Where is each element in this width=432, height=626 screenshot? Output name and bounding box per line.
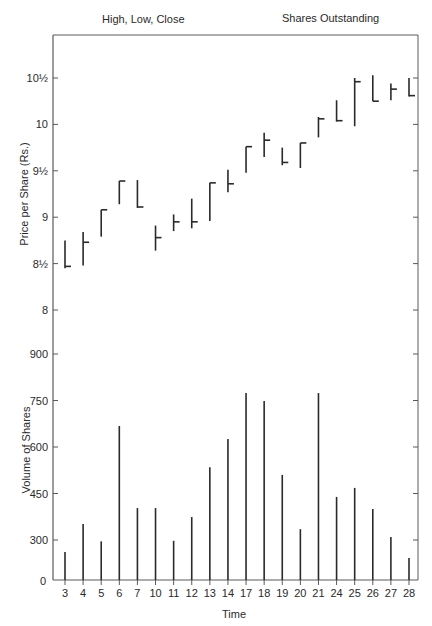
x-tick-label: 26 [367,587,379,599]
x-tick-label: 6 [116,587,122,599]
x-tick-label: 19 [276,587,288,599]
volume-tick-label: 600 [30,441,48,453]
x-tick-label: 27 [385,587,397,599]
volume-tick-label: 900 [30,348,48,360]
x-tick-label: 17 [240,587,252,599]
price-tick-label: 10½ [27,72,48,84]
x-tick-label: 21 [312,587,324,599]
x-tick-label: 5 [98,587,104,599]
plot-area: 88½99½1010½03004506007509003456710111213… [0,0,432,626]
x-tick-label: 18 [258,587,270,599]
price-tick-label: 8½ [33,258,48,270]
x-tick-label: 11 [168,587,179,599]
x-tick-label: 4 [80,587,86,599]
x-tick-label: 12 [186,587,198,599]
x-tick-label: 13 [204,587,216,599]
x-tick-label: 14 [222,587,234,599]
volume-tick-label: 300 [30,534,48,546]
price-tick-label: 10 [36,118,48,130]
x-tick-label: 28 [403,587,415,599]
price-tick-label: 9 [42,211,48,223]
stock-chart: High, Low, Close Shares Outstanding Pric… [0,0,432,626]
x-tick-label: 7 [134,587,140,599]
x-tick-label: 10 [149,587,161,599]
x-tick-label: 20 [294,587,306,599]
x-tick-label: 24 [330,587,342,599]
price-tick-label: 9½ [33,165,48,177]
x-tick-label: 25 [349,587,361,599]
volume-tick-label: 750 [30,395,48,407]
volume-tick-label: 0 [40,575,46,587]
price-tick-label: 8 [42,304,48,316]
x-tick-label: 3 [62,587,68,599]
volume-tick-label: 450 [30,488,48,500]
